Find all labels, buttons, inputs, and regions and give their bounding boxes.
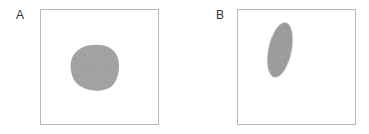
panel-a <box>40 9 159 125</box>
panel-b <box>237 9 356 125</box>
panel-b-label: B <box>216 9 224 21</box>
round-cell-icon <box>41 10 160 126</box>
panel-a-label: A <box>16 9 24 21</box>
elongated-cell-icon <box>238 10 357 126</box>
